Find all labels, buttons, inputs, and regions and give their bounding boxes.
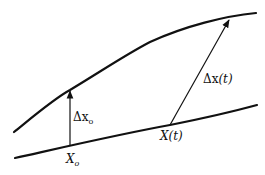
trajectory-perturbation-diagram: Δxo Δx(t) Xo X(t) <box>0 0 265 175</box>
trajectory-point-label: X(t) <box>159 129 183 143</box>
final-displacement-label: Δx(t) <box>203 72 233 86</box>
initial-point-label: Xo <box>65 152 80 168</box>
initial-displacement-label: Δxo <box>73 110 93 126</box>
reference-trajectory-line <box>15 105 257 158</box>
